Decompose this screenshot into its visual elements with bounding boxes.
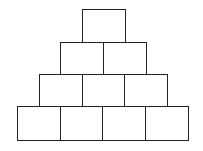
pyramid-block-row1-1 [82,9,126,43]
pyramid-block-row4-1 [17,106,61,141]
pyramid-block-row4-4 [145,106,189,141]
pyramid-block-row3-1 [39,74,83,108]
pyramid-block-row3-2 [82,74,126,108]
pyramid-block-row3-3 [124,74,168,108]
pyramid-block-row2-2 [103,42,147,75]
pyramid-block-row2-1 [60,42,104,75]
pyramid-block-row4-2 [60,106,104,141]
pyramid-block-row4-3 [102,106,146,141]
